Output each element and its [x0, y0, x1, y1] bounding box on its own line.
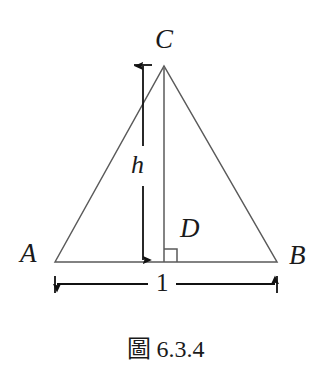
triangle-outline	[55, 66, 277, 262]
figure-caption: 圖6.3.4	[0, 329, 331, 364]
label-vertex-b: B	[289, 242, 306, 269]
label-height-h: h	[131, 152, 144, 178]
right-angle-marker	[164, 249, 177, 262]
figure-container: C A B D h 1 圖6.3.4	[0, 0, 331, 375]
label-vertex-c: C	[155, 26, 173, 53]
label-point-d: D	[180, 215, 200, 242]
label-vertex-a: A	[20, 240, 37, 267]
label-base-length: 1	[156, 270, 169, 295]
caption-number: 6.3.4	[157, 336, 205, 362]
caption-prefix: 圖	[127, 336, 151, 362]
triangle-diagram-svg	[0, 0, 331, 375]
